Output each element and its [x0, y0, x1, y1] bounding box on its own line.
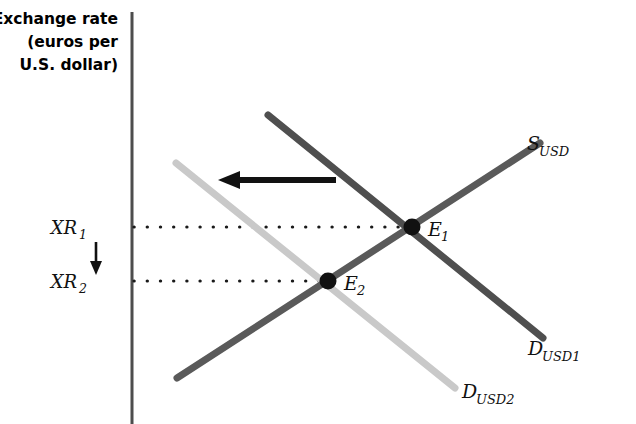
exchange-rate-supply-demand-diagram: Exchange rate (euros per U.S. dollar) E …: [0, 0, 636, 424]
equilibrium-dot-e2: [320, 273, 337, 290]
price-label-xr2-main: XR: [49, 271, 77, 292]
price-label-xr1-main: XR: [49, 217, 77, 238]
curve-label-supply-sub: USD: [539, 144, 570, 159]
curve-label-demand-initial-sub: USD1: [542, 349, 581, 364]
price-label-xr1-sub: 1: [79, 227, 87, 242]
equilibrium-label-e2-sub: 2: [356, 283, 365, 298]
y-axis-label-line-2: (euros per: [27, 33, 118, 51]
y-axis-label-line-1: Exchange rate: [0, 10, 118, 28]
equilibrium-label-e2-main: E: [343, 272, 358, 294]
equilibrium-label-e1-sub: 1: [441, 229, 449, 244]
equilibrium-dot-e1: [404, 219, 421, 236]
curve-label-demand-shifted-sub: USD2: [476, 392, 515, 407]
curve-label-demand-shifted-main: D: [461, 380, 477, 402]
price-label-xr2-sub: 2: [78, 281, 87, 296]
equilibrium-label-e1-main: E: [427, 218, 442, 240]
y-axis-label-line-3: U.S. dollar): [20, 56, 118, 74]
curve-label-demand-initial-main: D: [527, 337, 543, 359]
